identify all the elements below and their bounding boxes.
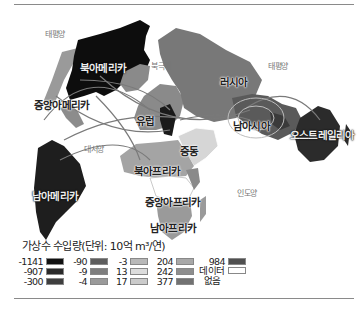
legend-item-no-data: 데이터 없음 [196,266,246,286]
legend-swatch [176,258,194,265]
legend-swatch [130,268,148,275]
ocean-label-arctic: 북극해 [151,60,171,71]
legend-swatch [46,278,64,285]
legend-item: -1141 [12,256,64,266]
ocean-label-pacific-west: 태평양 [45,28,65,39]
legend-item: 13 [110,266,148,276]
region-label-north-africa: 북아프리카 [134,163,180,178]
legend-swatch [130,258,148,265]
legend-title: 가상수 수입량(단위: 10억 m³/연) [22,237,165,253]
ocean-label-atlantic: 대서양 [84,143,104,154]
legend-column-4: 204 242 377 [150,256,194,286]
legend-swatch [90,258,108,265]
legend-swatch [228,267,246,274]
legend-column-2: -90 -9 -4 [66,256,108,286]
legend-item: 242 [150,266,194,276]
legend-item: 204 [150,256,194,266]
legend-item: -907 [12,266,64,276]
region-label-middle-east: 중동 [180,143,198,158]
region-label-south-asia: 남아시아 [233,118,270,133]
legend-column-5: 984 데이터 없음 [196,256,246,286]
ocean-label-indian: 인도양 [237,187,257,198]
legend-item: -9 [66,266,108,276]
legend-item: -300 [12,276,64,286]
legend-item: 17 [110,276,148,286]
legend-column-3: -3 13 17 [110,256,148,286]
legend-swatch [46,258,64,265]
region-label-australia: 오스트레일리아 [290,127,354,142]
legend-item: -3 [110,256,148,266]
region-label-central-africa: 중앙아프리카 [145,194,200,209]
legend-item: 377 [150,276,194,286]
legend-swatch [90,278,108,285]
region-label-south-africa: 남아프리카 [150,220,196,235]
region-label-russia: 러시아 [220,74,248,89]
region-label-europe: 유럽 [136,113,154,128]
legend-swatch [46,268,64,275]
region-madagascar [200,196,206,222]
legend-item: -4 [66,276,108,286]
bottom-rule [14,298,354,299]
region-label-central-america: 중앙아메리카 [34,97,89,112]
legend-swatch [130,278,148,285]
legend-column-1: -1141 -907 -300 [12,256,64,286]
legend-swatch [90,268,108,275]
region-label-north-america: 북아메리카 [80,60,126,75]
legend-swatch [176,268,194,275]
region-label-south-america: 남아메리카 [32,188,78,203]
legend-swatch [176,278,194,285]
legend-item: -90 [66,256,108,266]
legend-swatch [228,258,246,265]
ocean-label-pacific-east: 태평양 [268,60,288,71]
